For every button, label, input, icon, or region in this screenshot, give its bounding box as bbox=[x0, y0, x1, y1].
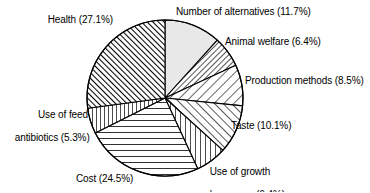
slice-label-use-of-growth-hormones: Use of growth hormones (6.4%) bbox=[199, 154, 285, 192]
slice-label-use-of-feed-antibiotics-line2: antibiotics (5.3%) bbox=[15, 132, 90, 143]
slice-label-production-methods: Production methods (8.5%) bbox=[245, 75, 364, 87]
pie-chart-canvas bbox=[0, 0, 370, 192]
pie-chart-figure: Number of alternatives (11.7%) Animal we… bbox=[0, 0, 370, 192]
slice-label-health: Health (27.1%) bbox=[18, 14, 113, 26]
pie-slice bbox=[87, 20, 165, 108]
slice-label-cost: Cost (24.5%) bbox=[76, 173, 133, 185]
slice-label-number-of-alternatives: Number of alternatives (11.7%) bbox=[176, 6, 311, 18]
slice-label-taste: Taste (10.1%) bbox=[231, 120, 291, 132]
slice-label-use-of-feed-antibiotics: Use of feed antibiotics (5.3%) bbox=[4, 97, 88, 155]
slice-label-use-of-feed-antibiotics-line1: Use of feed bbox=[38, 109, 88, 120]
slice-label-use-of-growth-hormones-line2: hormones (6.4%) bbox=[210, 189, 285, 193]
slice-label-animal-welfare: Animal welfare (6.4%) bbox=[225, 36, 321, 48]
slice-label-use-of-growth-hormones-line1: Use of growth bbox=[210, 166, 270, 177]
pie-slices-group bbox=[87, 20, 243, 176]
